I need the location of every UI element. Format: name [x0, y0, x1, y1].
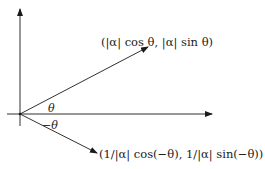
upper-point-label: (|α| cos θ, |α| sin θ)	[101, 35, 213, 50]
lower-vector	[20, 114, 97, 153]
angle-theta-label: θ	[48, 102, 55, 115]
diagram-canvas: (|α| cos θ, |α| sin θ) (1/|α| cos(−θ), 1…	[0, 0, 265, 169]
angle-neg-theta-label: −θ	[42, 119, 58, 132]
lower-point-label: (1/|α| cos(−θ), 1/|α| sin(−θ))	[99, 147, 263, 162]
origin-point	[19, 113, 22, 116]
upper-vector	[20, 47, 148, 114]
